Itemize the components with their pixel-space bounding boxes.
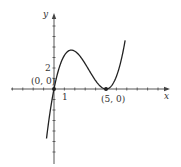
y-axis-arrow-icon	[52, 13, 56, 19]
origin-point	[52, 87, 56, 91]
point-5-0-label: (5, 0)	[101, 94, 125, 104]
function-graph: y x 2 1 (0, 0) (5, 0)	[0, 0, 181, 167]
x-tick-label-1: 1	[62, 92, 68, 102]
y-axis-label: y	[42, 9, 49, 19]
y-tick-label-2: 2	[45, 63, 51, 73]
origin-label: (0, 0)	[31, 76, 55, 86]
point-5-0	[104, 87, 108, 91]
x-axis-label: x	[164, 91, 169, 101]
